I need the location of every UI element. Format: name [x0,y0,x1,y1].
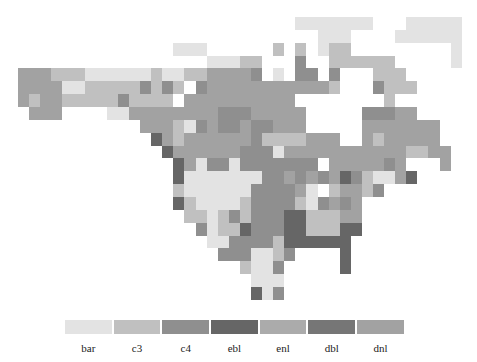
map-cell-empty [96,210,107,223]
map-cell-empty [29,184,40,197]
map-cell-empty [40,158,51,171]
map-cell-empty [451,146,462,159]
map-cell-empty [140,133,151,146]
map-cell-empty [306,30,317,43]
map-cell-bar [218,197,229,210]
map-cell-dnl [362,158,373,171]
map-cell-empty [62,236,73,249]
map-cell-c4 [262,158,273,171]
map-cell-empty [262,17,273,30]
map-cell-empty [207,30,218,43]
map-cell-bar [218,56,229,69]
map-cell-empty [62,43,73,56]
map-cell-c3 [351,56,362,69]
map-cell-empty [406,43,417,56]
map-cell-bar [240,184,251,197]
map-cell-empty [451,210,462,223]
map-cell-empty [406,261,417,274]
map-cell-empty [329,107,340,120]
map-cell-empty [173,30,184,43]
map-cell-empty [362,94,373,107]
legend-label: bar [81,342,95,354]
legend-item-c3: c3 [114,320,161,354]
map-cell-empty [40,171,51,184]
map-row [18,107,462,120]
map-cell-bar [229,171,240,184]
map-cell-empty [85,236,96,249]
map-cell-bar [184,43,195,56]
map-cell-dnl [329,171,340,184]
map-row [18,68,462,81]
map-cell-empty [417,171,428,184]
map-cell-bar [406,30,417,43]
map-cell-dnl [218,81,229,94]
map-cell-c4 [118,94,129,107]
map-cell-empty [29,30,40,43]
map-cell-empty [284,43,295,56]
map-cell-empty [428,171,439,184]
map-cell-bar [451,56,462,69]
map-cell-empty [107,43,118,56]
map-row [18,184,462,197]
map-cell-c4 [229,236,240,249]
map-cell-empty [173,248,184,261]
map-cell-empty [73,210,84,223]
map-cell-empty [440,210,451,223]
map-cell-empty [129,287,140,300]
map-cell-dnl [351,184,362,197]
map-cell-empty [351,68,362,81]
map-cell-dnl [140,107,151,120]
map-cell-empty [240,274,251,287]
map-cell-empty [351,30,362,43]
map-cell-empty [85,43,96,56]
map-cell-bar [251,248,262,261]
map-cell-empty [362,81,373,94]
map-cell-c4 [240,146,251,159]
map-cell-c4 [162,81,173,94]
map-cell-empty [318,68,329,81]
map-cell-empty [362,261,373,274]
map-cell-bar [218,236,229,249]
map-cell-empty [85,107,96,120]
map-cell-empty [129,274,140,287]
map-cell-c4 [306,68,317,81]
map-cell-empty [73,248,84,261]
map-cell-dnl [417,133,428,146]
map-cell-empty [151,261,162,274]
map-cell-empty [451,287,462,300]
map-cell-bar [196,43,207,56]
map-cell-dnl [51,94,62,107]
map-cell-ebl [340,223,351,236]
map-cell-empty [140,248,151,261]
map-cell-c4 [262,146,273,159]
map-cell-dnl [284,94,295,107]
map-cell-empty [318,248,329,261]
map-cell-empty [440,56,451,69]
map-cell-empty [73,274,84,287]
map-cell-empty [18,158,29,171]
map-cell-empty [395,17,406,30]
map-cell-c3 [329,184,340,197]
map-cell-empty [18,133,29,146]
map-cell-empty [85,158,96,171]
map-cell-bar [384,171,395,184]
map-cell-empty [51,261,62,274]
map-cell-empty [118,133,129,146]
map-cell-empty [440,274,451,287]
map-cell-empty [351,107,362,120]
map-cell-dnl [440,146,451,159]
map-cell-empty [62,248,73,261]
map-cell-empty [51,158,62,171]
map-cell-empty [162,274,173,287]
map-cell-dnl [284,120,295,133]
map-cell-bar [440,30,451,43]
map-cell-c3 [384,94,395,107]
map-cell-empty [151,146,162,159]
map-cell-empty [96,184,107,197]
map-cell-empty [96,30,107,43]
map-cell-dnl [284,107,295,120]
map-cell-dnl [173,146,184,159]
map-cell-empty [62,146,73,159]
map-cell-c4 [207,158,218,171]
map-cell-empty [362,210,373,223]
